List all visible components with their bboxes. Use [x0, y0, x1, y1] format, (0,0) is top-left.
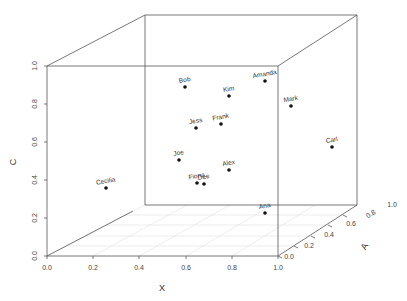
- data-point: Jess: [188, 116, 203, 130]
- data-point: Cecilia: [95, 175, 116, 189]
- data-point: Amanda: [252, 68, 277, 83]
- y-axis-title: A: [359, 241, 371, 251]
- svg-text:0.4: 0.4: [134, 264, 144, 271]
- floor-grid: [47, 205, 343, 256]
- point-label: Jess: [188, 116, 203, 125]
- point-marker: [330, 145, 334, 149]
- x-axis-tick-labels: 0.0 0.2 0.4 0.6 0.8 1.0: [42, 264, 283, 271]
- svg-text:0.2: 0.2: [31, 213, 38, 223]
- svg-text:0.2: 0.2: [88, 264, 98, 271]
- point-label: Ana: [258, 201, 271, 210]
- point-label: Alex: [222, 158, 236, 167]
- point-label: Dee: [197, 172, 210, 181]
- point-marker: [227, 168, 231, 172]
- svg-text:0.2: 0.2: [304, 242, 314, 249]
- point-label: Frank: [212, 112, 230, 122]
- x-axis: [47, 256, 278, 259]
- point-marker: [195, 181, 199, 185]
- back-box: [145, 15, 357, 205]
- data-point: Ana: [258, 201, 271, 215]
- data-point: Joe: [173, 148, 185, 162]
- point-label: Carl: [325, 135, 338, 144]
- scatter-3d-chart: 0.0 0.2 0.4 0.6 0.8 1.0 C 0.0 0.2 0.4 0.…: [0, 0, 407, 301]
- data-point: Alex: [222, 158, 236, 172]
- box-depth-edges: [47, 15, 357, 256]
- z-axis-tick-labels: 0.0 0.2 0.4 0.6 0.8 1.0: [31, 61, 38, 261]
- z-axis: [44, 66, 47, 256]
- point-marker: [202, 182, 206, 186]
- svg-text:0.4: 0.4: [31, 175, 38, 185]
- svg-text:0.4: 0.4: [324, 231, 334, 238]
- svg-text:0.6: 0.6: [346, 220, 356, 227]
- point-marker: [177, 158, 181, 162]
- svg-text:0.0: 0.0: [284, 253, 294, 260]
- svg-text:0.0: 0.0: [31, 251, 38, 261]
- svg-text:0.8: 0.8: [365, 208, 377, 219]
- x-axis-title: X: [159, 283, 165, 293]
- point-label: Joe: [173, 148, 185, 157]
- point-marker: [219, 122, 223, 126]
- point-label: Mark: [283, 94, 299, 104]
- data-point: Bob: [178, 75, 191, 89]
- point-label: Bob: [178, 75, 191, 84]
- svg-text:1.0: 1.0: [31, 61, 38, 71]
- point-marker: [194, 126, 198, 130]
- data-point: Dee: [197, 172, 210, 186]
- data-point: Frank: [212, 112, 230, 126]
- svg-text:0.0: 0.0: [42, 264, 52, 271]
- point-label: Kim: [222, 84, 234, 93]
- point-label: Amanda: [252, 68, 277, 79]
- svg-text:1.0: 1.0: [387, 201, 397, 208]
- svg-text:0.6: 0.6: [181, 264, 191, 271]
- svg-text:1.0: 1.0: [273, 264, 283, 271]
- front-box: [47, 66, 278, 256]
- point-label: Cecilia: [95, 175, 116, 185]
- svg-text:0.8: 0.8: [227, 264, 237, 271]
- point-marker: [289, 104, 293, 108]
- point-marker: [104, 186, 108, 190]
- point-marker: [263, 211, 267, 215]
- point-marker: [183, 85, 187, 89]
- svg-text:0.6: 0.6: [31, 137, 38, 147]
- svg-text:0.8: 0.8: [31, 99, 38, 109]
- data-point: Kim: [222, 84, 234, 98]
- point-marker: [227, 94, 231, 98]
- data-points: BobKimAmandaJessFrankMarkJoeAlexFionaDee…: [95, 68, 338, 215]
- y-axis-tick-labels: 0.0 0.2 0.4 0.6 0.8 1.0: [284, 201, 397, 260]
- point-marker: [263, 79, 267, 83]
- data-point: Carl: [325, 135, 338, 149]
- z-axis-title: C: [8, 158, 18, 165]
- data-point: Mark: [283, 94, 299, 108]
